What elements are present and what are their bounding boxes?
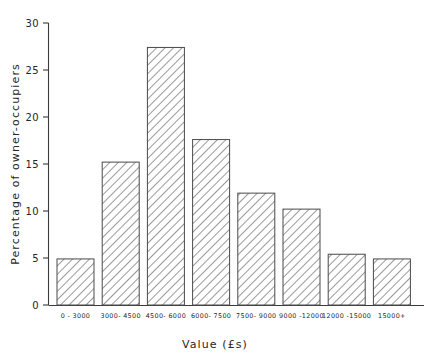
bar <box>328 254 365 305</box>
bar <box>373 259 410 305</box>
x-tick-label: 12000 -15000 <box>322 312 371 320</box>
x-tick-label: 9000 -12000 <box>279 312 324 320</box>
y-tick-label: 25 <box>25 65 39 76</box>
chart-canvas: 0 5 10 15 20 25 30 0 - 30003000- 4500450… <box>0 0 432 361</box>
y-tick-label: 5 <box>32 253 39 264</box>
y-tick-label: 15 <box>25 159 39 170</box>
x-tick-label: 15000+ <box>378 312 406 320</box>
bar <box>193 140 230 305</box>
bar <box>147 47 184 305</box>
x-tick-label: 7500- 9000 <box>236 312 276 320</box>
y-tick-label: 20 <box>25 112 39 123</box>
histogram-chart: 0 5 10 15 20 25 30 0 - 30003000- 4500450… <box>0 0 432 361</box>
x-tick-label: 0 - 3000 <box>61 312 91 320</box>
y-axis-title: Percentage of owner-occupiers <box>9 63 22 265</box>
bar <box>102 162 139 305</box>
x-tick-label: 4500- 6000 <box>146 312 186 320</box>
bar <box>57 259 94 305</box>
bar <box>283 209 320 305</box>
bar <box>238 193 275 305</box>
y-tick-label: 0 <box>32 300 39 311</box>
y-tick-label: 30 <box>25 18 39 29</box>
x-tick-label: 6000- 7500 <box>191 312 231 320</box>
y-tick-label: 10 <box>25 206 39 217</box>
x-axis-title: Value (£s) <box>182 338 248 351</box>
x-tick-label: 3000- 4500 <box>101 312 141 320</box>
